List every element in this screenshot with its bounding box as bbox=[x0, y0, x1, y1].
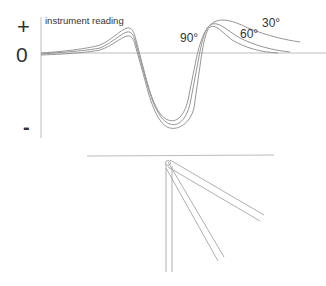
probe-sketch bbox=[166, 160, 265, 272]
probe-bar-60 bbox=[168, 162, 224, 257]
reading-diagram: + 0 - instrument reading 90° 60° 30° bbox=[0, 0, 326, 286]
y-axis-title: instrument reading bbox=[45, 15, 124, 26]
label-30: 30° bbox=[262, 16, 280, 30]
label-90: 90° bbox=[180, 31, 198, 45]
label-60: 60° bbox=[240, 27, 258, 41]
zero-label: 0 bbox=[16, 43, 28, 66]
surface-line bbox=[87, 155, 274, 156]
probe-bar-60-edge bbox=[166, 168, 218, 261]
plus-label: + bbox=[17, 14, 30, 39]
probe-bar-30 bbox=[170, 160, 264, 215]
probe-bar-30-edge bbox=[168, 167, 260, 221]
minus-label: - bbox=[23, 116, 30, 138]
curve-30 bbox=[41, 20, 300, 121]
